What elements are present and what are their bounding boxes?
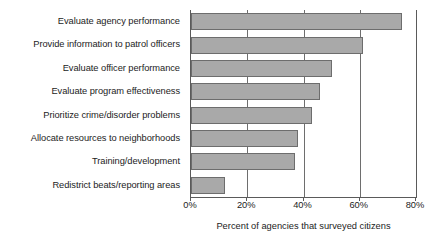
bar-series bbox=[191, 10, 416, 197]
bar-row bbox=[191, 174, 416, 197]
bar-chart: Evaluate agency performance Provide info… bbox=[0, 0, 439, 242]
category-label: Evaluate officer performance bbox=[0, 57, 185, 80]
x-tick-label: 60% bbox=[349, 201, 368, 210]
category-label: Evaluate agency performance bbox=[0, 10, 185, 33]
bar bbox=[191, 153, 295, 170]
category-label: Allocate resources to neighborhoods bbox=[0, 127, 185, 150]
category-label: Provide information to patrol officers bbox=[0, 33, 185, 56]
category-label: Redistrict beats/reporting areas bbox=[0, 174, 185, 197]
category-label: Prioritize crime/disorder problems bbox=[0, 104, 185, 127]
bar-row bbox=[191, 80, 416, 103]
x-tick-label: 0% bbox=[183, 201, 196, 210]
bar bbox=[191, 130, 298, 147]
x-tick-label: 20% bbox=[237, 201, 256, 210]
x-tick-label: 80% bbox=[406, 201, 425, 210]
plot-area bbox=[190, 10, 417, 197]
bar-row bbox=[191, 150, 416, 173]
bar bbox=[191, 60, 332, 77]
x-tick-label: 40% bbox=[293, 201, 312, 210]
category-label: Evaluate program effectiveness bbox=[0, 80, 185, 103]
x-axis-ticks: 0%20%40%60%80% bbox=[190, 198, 417, 212]
category-axis-labels: Evaluate agency performance Provide info… bbox=[0, 10, 185, 197]
category-label: Training/development bbox=[0, 150, 185, 173]
x-axis-title: Percent of agencies that surveyed citize… bbox=[190, 222, 417, 231]
bar bbox=[191, 37, 363, 54]
bar bbox=[191, 177, 225, 194]
bar-row bbox=[191, 57, 416, 80]
bar bbox=[191, 107, 312, 124]
bar-row bbox=[191, 33, 416, 56]
bar-row bbox=[191, 127, 416, 150]
bar-row bbox=[191, 10, 416, 33]
bar-row bbox=[191, 104, 416, 127]
bar bbox=[191, 13, 402, 30]
bar bbox=[191, 83, 320, 100]
